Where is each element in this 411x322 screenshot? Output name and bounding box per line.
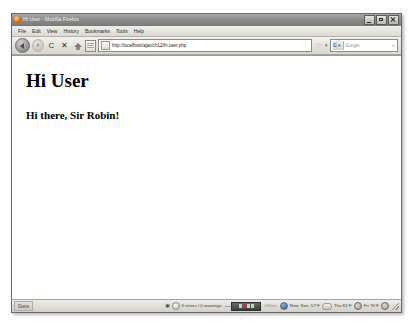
search-engine-selector[interactable]: G ▾: [333, 41, 344, 50]
bug-icon: ✱: [165, 301, 170, 311]
weather-orb-thu-icon: [354, 302, 362, 310]
page-content: Hi User Hi there, Sir Robin!: [12, 55, 401, 299]
search-bar[interactable]: G ▾ Google ⌕: [330, 39, 398, 52]
progress-dash-left: ––: [225, 301, 231, 311]
page-greeting: Hi there, Sir Robin!: [26, 109, 387, 122]
weather-orb-fri-icon: [381, 302, 389, 310]
progress-bar: [231, 302, 261, 311]
console-circle-icon: [172, 302, 180, 310]
status-message: Done: [14, 301, 33, 311]
url-bar[interactable]: http://localhost/ajax/ch12/hi.user.php: [98, 39, 312, 52]
firefox-icon: [14, 16, 21, 23]
weather-now-text: Now: San, 57°F: [290, 301, 320, 311]
menu-item-file[interactable]: File: [15, 27, 29, 36]
menu-item-help[interactable]: Help: [131, 27, 147, 36]
search-icon[interactable]: ⌕: [392, 42, 395, 49]
window-controls: [364, 15, 399, 25]
menu-bar: File Edit View History Bookmarks Tools H…: [12, 26, 401, 37]
title-bar[interactable]: Hi User - Mozilla Firefox: [12, 14, 401, 26]
screenshot-root: Hi User - Mozilla Firefox File Edit View…: [0, 0, 411, 322]
menu-item-tools[interactable]: Tools: [113, 27, 131, 36]
browser-window: Hi User - Mozilla Firefox File Edit View…: [11, 13, 402, 313]
status-bar: Done ✱ 0 errors / 0 warnings –– Offline: [12, 299, 401, 312]
weather-orb-now-icon: [280, 302, 288, 310]
chevron-down-icon[interactable]: ▾: [325, 41, 328, 50]
resize-grip-icon[interactable]: [392, 303, 399, 310]
home-icon[interactable]: [72, 40, 83, 52]
page-favicon-icon: [101, 41, 110, 50]
firebug-console-indicator[interactable]: ✱ 0 errors / 0 warnings: [165, 301, 222, 311]
window-title: Hi User - Mozilla Firefox: [23, 16, 364, 23]
cloud-icon: [322, 303, 332, 310]
back-button-icon[interactable]: [15, 38, 30, 53]
page-title: Hi User: [26, 70, 387, 92]
weather-thu-text: Thu 81°F: [334, 301, 352, 311]
maximize-button[interactable]: [376, 15, 387, 25]
menu-item-edit[interactable]: Edit: [29, 27, 44, 36]
navigation-toolbar: C ✕ http://localhost/ajax/ch12/hi.user.p…: [12, 37, 401, 55]
weather-fri-text: Fri 76°F: [364, 301, 379, 311]
page-icon[interactable]: [85, 40, 96, 52]
stop-icon[interactable]: ✕: [59, 40, 70, 52]
url-input[interactable]: http://localhost/ajax/ch12/hi.user.php: [112, 41, 309, 50]
bookmark-star-icon[interactable]: ☆: [315, 41, 322, 50]
weather-extension[interactable]: Now: San, 57°F Thu 81°F Fri 76°F: [280, 301, 389, 311]
search-input[interactable]: Google: [345, 41, 391, 50]
forward-button-icon[interactable]: [32, 39, 44, 52]
progress-segment: [239, 304, 242, 308]
menu-item-bookmarks[interactable]: Bookmarks: [82, 27, 113, 36]
progress-segment: [251, 304, 254, 308]
progress-segment: [247, 304, 250, 308]
console-status-text: 0 errors / 0 warnings: [182, 301, 222, 311]
menu-item-history[interactable]: History: [60, 27, 82, 36]
search-chevron-down-icon: ▾: [338, 41, 341, 50]
minimize-button[interactable]: [364, 15, 375, 25]
close-button[interactable]: [388, 15, 399, 25]
offline-status: Offline: [264, 301, 277, 311]
reload-icon[interactable]: C: [46, 40, 57, 52]
menu-item-view[interactable]: View: [44, 27, 61, 36]
progress-segment: [243, 304, 246, 308]
google-logo-icon: G: [333, 41, 337, 50]
progress-indicator: ––: [225, 301, 262, 311]
